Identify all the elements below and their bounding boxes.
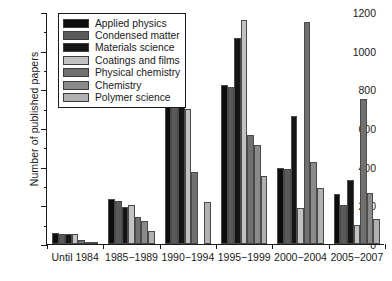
legend-swatch-icon [63, 19, 89, 28]
legend-item: Applied physics [63, 17, 180, 29]
y-tick-minor [44, 148, 48, 149]
x-tick [103, 244, 104, 249]
bar [228, 87, 235, 244]
y-tick-major [41, 13, 47, 14]
bar [59, 234, 66, 244]
legend-swatch-icon [63, 93, 89, 102]
bar [291, 116, 298, 244]
bar [340, 205, 347, 244]
bar [92, 242, 99, 244]
bar [52, 233, 59, 244]
bar [261, 176, 268, 244]
bar [254, 145, 261, 244]
bar [277, 168, 284, 244]
legend: Applied physicsCondensed matterMaterials… [58, 13, 186, 108]
y-tick-minor [44, 226, 48, 227]
bar [241, 20, 248, 244]
x-tick-label: 2005−2007 [330, 251, 383, 263]
y-tick-minor [44, 71, 48, 72]
bar [367, 193, 374, 244]
legend-label: Applied physics [95, 18, 167, 29]
bar [204, 202, 211, 244]
legend-label: Coatings and films [95, 55, 180, 66]
bar [65, 234, 72, 244]
legend-swatch-icon [63, 31, 89, 40]
legend-label: Polymer science [95, 92, 171, 103]
legend-swatch-icon [63, 81, 89, 90]
bar [284, 169, 291, 244]
bar [310, 162, 317, 244]
bar [185, 109, 192, 244]
legend-swatch-icon [63, 68, 89, 77]
bar [347, 180, 354, 244]
bar [191, 172, 198, 245]
x-tick-label: 2000−2004 [274, 251, 327, 263]
bar [317, 188, 324, 244]
bar [234, 38, 241, 244]
legend-item: Coatings and films [63, 54, 180, 66]
x-tick [272, 244, 273, 249]
bar [135, 217, 142, 244]
x-tick-label: Until 1984 [52, 251, 99, 263]
x-tick [385, 244, 386, 249]
bar [221, 85, 228, 244]
x-tick-label: 1985−1989 [105, 251, 158, 263]
y-tick-label: 800 [358, 84, 376, 96]
x-tick-label: 1990−1994 [161, 251, 214, 263]
y-tick-major [41, 52, 47, 53]
y-tick-label: 1000 [353, 46, 376, 58]
bar [72, 234, 79, 244]
y-tick-major [41, 90, 47, 91]
legend-label: Physical chemistry [95, 67, 180, 78]
x-tick-label: 1995−1999 [218, 251, 271, 263]
bar [141, 221, 148, 244]
bar [334, 194, 341, 244]
bar [360, 99, 367, 244]
legend-swatch-icon [63, 43, 89, 52]
x-tick [160, 244, 161, 249]
legend-item: Polymer science [63, 91, 180, 103]
bar [354, 225, 361, 244]
y-tick-major [41, 168, 47, 169]
bar [297, 208, 304, 244]
bar-chart: Number of published papers 0200400600800… [0, 0, 392, 281]
y-tick-minor [44, 110, 48, 111]
bar [108, 199, 115, 244]
bar [171, 85, 178, 244]
bar [115, 201, 122, 244]
y-tick-label: 1200 [353, 7, 376, 19]
legend-label: Condensed matter [95, 30, 180, 41]
bar [85, 242, 92, 244]
bar [148, 231, 155, 244]
y-tick-major [41, 129, 47, 130]
legend-item: Condensed matter [63, 29, 180, 41]
y-axis-title: Number of published papers [28, 19, 40, 219]
legend-item: Materials science [63, 42, 180, 54]
legend-label: Chemistry [95, 80, 141, 91]
bar [128, 205, 135, 244]
legend-item: Chemistry [63, 79, 180, 91]
legend-item: Physical chemistry [63, 67, 180, 79]
bar [78, 240, 85, 244]
bar [122, 207, 129, 244]
legend-label: Materials science [95, 42, 175, 53]
legend-swatch-icon [63, 56, 89, 65]
bar [247, 135, 254, 244]
y-tick-minor [44, 32, 48, 33]
y-tick-minor [44, 187, 48, 188]
x-tick [216, 244, 217, 249]
x-tick [47, 244, 48, 249]
bar [373, 219, 380, 244]
y-tick-major [41, 206, 47, 207]
bar [304, 22, 311, 244]
x-tick [329, 244, 330, 249]
